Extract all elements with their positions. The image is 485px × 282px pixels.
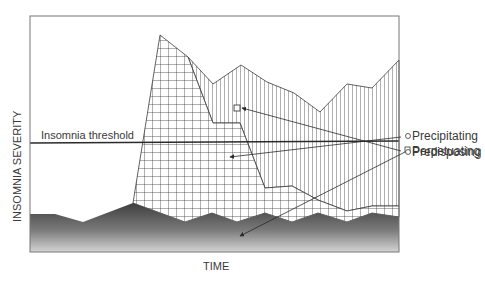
circle-marker-icon bbox=[406, 134, 411, 139]
x-axis-label: TIME bbox=[203, 260, 229, 272]
insomnia-model-chart: Insomnia threshold Perpetuating Precipit… bbox=[0, 0, 485, 282]
legend-item-predisposing: Predisposing bbox=[406, 145, 482, 159]
circle-marker-icon bbox=[406, 150, 411, 155]
legend-item-precipitating: Precipitating bbox=[406, 129, 479, 143]
svg-text:Precipitating: Precipitating bbox=[412, 129, 478, 143]
svg-text:Predisposing: Predisposing bbox=[412, 145, 481, 159]
legend: Perpetuating Precipitating Predisposing bbox=[405, 129, 481, 159]
y-axis-label: INSOMNIA SEVERITY bbox=[11, 110, 23, 222]
threshold-label: Insomnia threshold bbox=[41, 129, 134, 141]
